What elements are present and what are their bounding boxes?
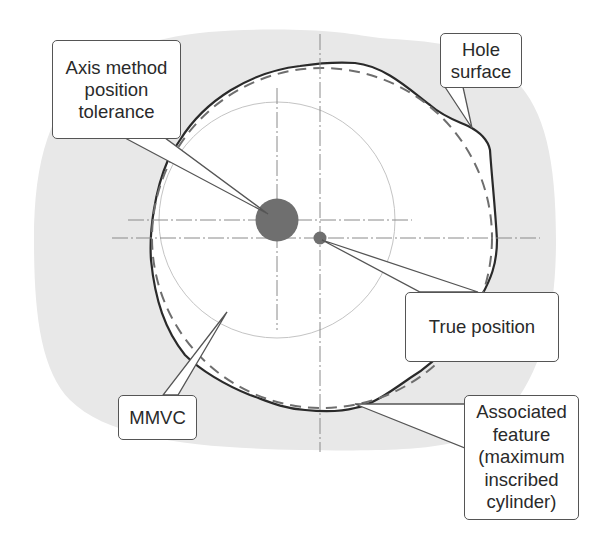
callout-true-position: True position: [405, 292, 559, 362]
callout-axis-method: Axis method position tolerance: [52, 40, 181, 139]
callout-hole-surface: Hole surface: [440, 33, 522, 88]
callout-associated-feature: Associated feature (maximum inscribed cy…: [464, 395, 579, 520]
true-position-dot-icon: [314, 232, 327, 245]
tolerance-zone-icon: [256, 199, 299, 242]
callout-mmvc: MMVC: [118, 395, 197, 440]
